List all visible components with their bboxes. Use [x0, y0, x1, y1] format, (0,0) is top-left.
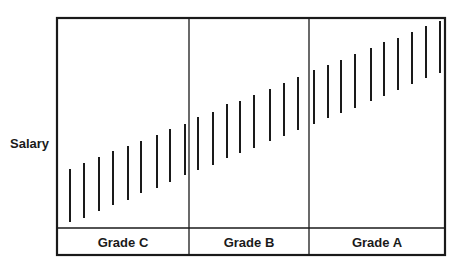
- salary-grade-chart: Grade CGrade BGrade A: [0, 0, 460, 270]
- chart-frame: [57, 18, 445, 255]
- grade-labels: Grade CGrade BGrade A: [98, 235, 403, 250]
- grade-range-group: [314, 21, 440, 124]
- outer-border: [57, 18, 445, 255]
- grade-label: Grade B: [224, 235, 275, 250]
- grade-range-group: [198, 77, 298, 170]
- salary-ranges: [70, 21, 440, 222]
- grade-label: Grade C: [98, 235, 149, 250]
- grade-range-group: [70, 124, 185, 222]
- grade-label: Grade A: [352, 235, 403, 250]
